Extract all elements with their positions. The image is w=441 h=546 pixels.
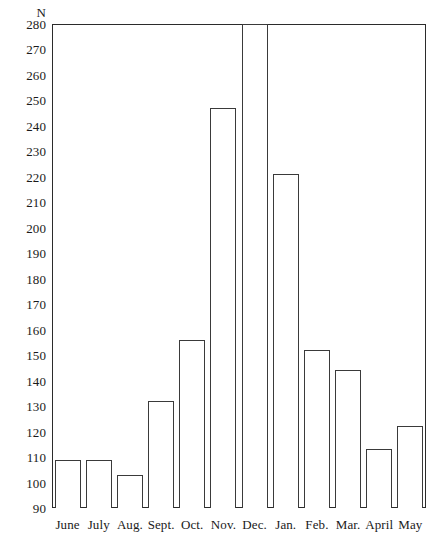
bar xyxy=(273,174,299,508)
bar xyxy=(55,460,81,508)
bars-layer xyxy=(52,24,426,508)
bar xyxy=(210,108,236,508)
bar xyxy=(117,475,143,508)
y-axis-tick-label: 100 xyxy=(0,477,46,490)
y-axis-tick-label: 90 xyxy=(0,502,46,515)
bar xyxy=(366,449,392,508)
y-axis-tick-label: 160 xyxy=(0,324,46,337)
y-axis-tick-label: 120 xyxy=(0,426,46,439)
y-axis-tick-label: 270 xyxy=(0,43,46,56)
y-axis-tick-label: 260 xyxy=(0,69,46,82)
y-axis-tick-label: 170 xyxy=(0,298,46,311)
bar xyxy=(335,370,361,508)
bar xyxy=(242,24,268,508)
bar xyxy=(86,460,112,508)
y-axis-tick-label: 240 xyxy=(0,120,46,133)
bar xyxy=(148,401,174,508)
y-axis-tick-label: 200 xyxy=(0,222,46,235)
bar-chart: N 28027026025024023022021020019018017016… xyxy=(0,0,441,546)
bar xyxy=(397,426,423,508)
y-axis-tick-label: 210 xyxy=(0,196,46,209)
y-axis-tick-label: 220 xyxy=(0,171,46,184)
y-axis-tick-label: 130 xyxy=(0,400,46,413)
y-axis-tick-label: 110 xyxy=(0,451,46,464)
bar xyxy=(179,340,205,508)
y-axis-tick-label: 190 xyxy=(0,247,46,260)
y-axis-tick-label: 180 xyxy=(0,273,46,286)
y-axis-tick-label: 140 xyxy=(0,375,46,388)
x-axis-tick-label: May xyxy=(389,518,432,532)
bar xyxy=(304,350,330,508)
y-axis-tick-label: 250 xyxy=(0,94,46,107)
y-axis-tick-label: 280 xyxy=(0,18,46,31)
y-axis-tick-label: 230 xyxy=(0,145,46,158)
y-axis-tick-label: 150 xyxy=(0,349,46,362)
